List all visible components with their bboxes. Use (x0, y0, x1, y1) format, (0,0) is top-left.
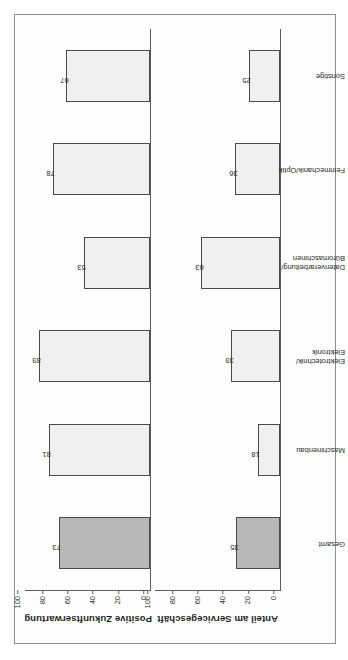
y-tick-label: 100 (144, 594, 152, 609)
bar-value-label: 36 (229, 169, 237, 177)
category-maschinenbau: Maschinenbau (283, 403, 345, 497)
bar-slot: 73 (25, 497, 150, 591)
y-tick-100: 100 (14, 590, 22, 609)
y-tick-80: 80 (169, 590, 177, 604)
bar-slot: 78 (25, 123, 150, 217)
y-tick-label: 40 (89, 594, 97, 604)
bar-sonstige[interactable]: 25 (249, 50, 280, 102)
bar-slot: 81 (25, 403, 150, 497)
y-tick-0: 0 (270, 590, 278, 600)
bar-feinmechanik-optik[interactable]: 78 (53, 143, 151, 195)
bar-group-upper: 73 81 89 53 78 67 (25, 29, 150, 590)
y-tick-40: 40 (89, 590, 97, 604)
rotated-page-content: Positive Zukunftserwartung 0 20 40 60 80… (0, 0, 348, 660)
bar-feinmechanik-optik[interactable]: 36 (235, 143, 280, 195)
category-label: Maschinenbau (283, 445, 345, 454)
y-tick-20: 20 (115, 590, 123, 604)
bar-value-label: 63 (195, 263, 203, 271)
category-label: Gesamt (283, 539, 345, 548)
bar-datenverarbeitung-bueromaschinen[interactable]: 63 (201, 237, 280, 289)
bar-maschinenbau[interactable]: 81 (49, 424, 150, 476)
bar-value-label: 18 (251, 450, 259, 458)
y-tick-label: 20 (115, 594, 123, 604)
chart-title-lower: Anteil am Servicegeschäft (155, 612, 281, 627)
category-label: Elektrotechnik/ Elektronik (283, 348, 345, 365)
x-axis-baseline (150, 29, 151, 590)
category-gesamt: Gesamt (283, 497, 345, 591)
y-tick-label: 40 (219, 594, 227, 604)
spacer (283, 590, 345, 612)
bar-maschinenbau[interactable]: 18 (258, 424, 281, 476)
y-tick-mark (67, 590, 68, 594)
bar-gesamt[interactable]: 35 (236, 517, 280, 569)
y-tick-40: 40 (219, 590, 227, 604)
y-axis-lower: 0 20 40 60 80 100 (155, 590, 281, 612)
figure-border-box: Positive Zukunftserwartung 0 20 40 60 80… (14, 14, 336, 644)
y-tick-mark (172, 590, 173, 594)
charts-area: Positive Zukunftserwartung 0 20 40 60 80… (15, 15, 335, 643)
category-feinmechanik-optik: Feinmechanik/Optik (283, 123, 345, 217)
bar-value-label: 67 (60, 76, 68, 84)
bar-slot: 35 (155, 497, 280, 591)
bar-elektrotechnik-elektronik[interactable]: 89 (39, 330, 150, 382)
y-tick-label: 60 (64, 594, 72, 604)
category-elektrotechnik-elektronik: Elektrotechnik/ Elektronik (283, 310, 345, 404)
bar-value-label: 81 (43, 450, 51, 458)
chart-positive-zukunftserwartung: Positive Zukunftserwartung 0 20 40 60 80… (25, 29, 151, 627)
bar-value-label: 25 (243, 76, 251, 84)
y-tick-20: 20 (245, 590, 253, 604)
y-tick-mark (42, 590, 43, 594)
bar-slot: 89 (25, 310, 150, 404)
y-tick-mark (17, 590, 18, 594)
bar-slot: 36 (155, 123, 280, 217)
page-frame: Positive Zukunftserwartung 0 20 40 60 80… (0, 0, 348, 660)
y-tick-label: 100 (14, 594, 22, 609)
y-tick-mark (273, 590, 274, 594)
bar-gesamt[interactable]: 73 (59, 517, 150, 569)
y-tick-label: 80 (169, 594, 177, 604)
y-tick-mark (248, 590, 249, 594)
y-tick-60: 60 (194, 590, 202, 604)
y-tick-mark (197, 590, 198, 594)
y-tick-mark (118, 590, 119, 594)
x-axis-baseline (280, 29, 281, 590)
y-axis-upper: 0 20 40 60 80 100 (25, 590, 151, 612)
bar-value-label: 53 (78, 263, 86, 271)
bar-slot: 39 (155, 310, 280, 404)
bar-slot: 18 (155, 403, 280, 497)
plot-area-upper: 73 81 89 53 78 67 (25, 29, 151, 590)
y-tick-label: 0 (270, 594, 278, 600)
y-tick-mark (223, 590, 224, 594)
bar-sonstige[interactable]: 67 (66, 50, 150, 102)
bar-value-label: 89 (33, 356, 41, 364)
bar-slot: 53 (25, 216, 150, 310)
y-tick-label: 60 (194, 594, 202, 604)
bar-slot: 63 (155, 216, 280, 310)
plot-wrap-upper: 0 20 40 60 80 100 73 81 89 (25, 29, 151, 612)
category-axis-labels: Gesamt Maschinenbau Elektrotechnik/ Elek… (283, 29, 345, 627)
y-tick-mark (147, 590, 148, 594)
category-label: Datenverarbeitung/ Büromaschinen (283, 254, 345, 271)
plot-area-lower: 35 18 39 63 36 25 (155, 29, 281, 590)
y-tick-mark (93, 590, 94, 594)
bar-value-label: 35 (230, 543, 238, 551)
bar-slot: 25 (155, 29, 280, 123)
category-label: Feinmechanik/Optik (283, 165, 345, 174)
y-tick-label: 80 (39, 594, 47, 604)
bar-elektrotechnik-elektronik[interactable]: 39 (231, 330, 280, 382)
category-label: Sonstige (283, 71, 345, 80)
bar-value-label: 73 (53, 543, 61, 551)
bar-value-label: 78 (46, 169, 54, 177)
chart-anteil-am-servicegeschaeft: Anteil am Servicegeschäft 0 20 40 60 80 … (155, 29, 281, 627)
y-tick-60: 60 (64, 590, 72, 604)
y-tick-80: 80 (39, 590, 47, 604)
category-sonstige: Sonstige (283, 29, 345, 123)
bar-datenverarbeitung-bueromaschinen[interactable]: 53 (84, 237, 150, 289)
category-datenverarbeitung-bueromaschinen: Datenverarbeitung/ Büromaschinen (283, 216, 345, 310)
spacer (283, 612, 345, 627)
bar-group-lower: 35 18 39 63 36 25 (155, 29, 280, 590)
y-tick-label: 20 (245, 594, 253, 604)
bar-value-label: 39 (225, 356, 233, 364)
y-tick-100: 100 (144, 590, 152, 609)
plot-wrap-lower: 0 20 40 60 80 100 35 18 39 (155, 29, 281, 612)
